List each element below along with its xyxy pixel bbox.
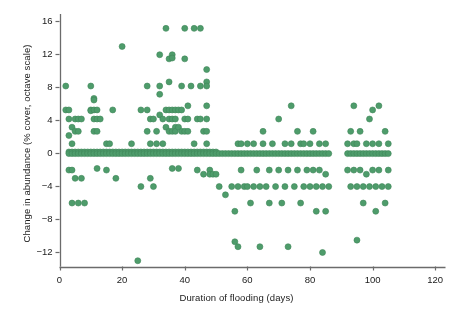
x-tick-label: 0 [40,274,80,285]
y-tick-label: −12 [13,246,53,257]
y-tick-label: 16 [13,15,53,26]
x-tick-label: 120 [415,274,455,285]
y-tick-label: 4 [13,114,53,125]
y-tick-label: 12 [13,48,53,59]
x-axis-title: Duration of flooding (days) [0,292,473,303]
x-tick-label: 80 [290,274,330,285]
y-tick-label: −8 [13,213,53,224]
y-tick-label: 8 [13,81,53,92]
scatter-plot-canvas [0,0,473,320]
scatter-plot-figure: Duration of flooding (days) Change in ab… [0,0,473,320]
x-tick-label: 100 [353,274,393,285]
x-tick-label: 40 [165,274,205,285]
x-tick-label: 20 [102,274,142,285]
x-tick-label: 60 [227,274,267,285]
y-tick-label: −4 [13,180,53,191]
y-tick-label: 0 [13,147,53,158]
